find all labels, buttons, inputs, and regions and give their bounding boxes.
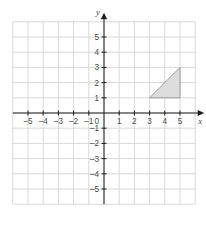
y-axis-tick-label: 2 — [94, 79, 99, 88]
y-axis-tick-label: 1 — [94, 94, 99, 103]
y-axis-tick-label: 5 — [94, 33, 99, 42]
coordinate-plane-figure: –5–4–3–2–112345–5–4–3–2–112345 x y 0 — [0, 0, 206, 225]
y-axis-tick-label: –2 — [90, 139, 100, 148]
x-axis-tick-label: 3 — [147, 117, 152, 126]
origin-label: 0 — [94, 117, 99, 126]
x-axis-label: x — [197, 116, 202, 126]
y-axis-tick-label: –5 — [90, 185, 100, 194]
y-axis-label: y — [95, 7, 100, 17]
x-axis-tick-label: –5 — [23, 117, 33, 126]
x-axis-tick-label: 4 — [163, 117, 168, 126]
coordinate-plane-svg: –5–4–3–2–112345–5–4–3–2–112345 x y 0 — [0, 0, 206, 225]
y-axis-tick-label: 4 — [94, 48, 99, 57]
x-axis-tick-label: 2 — [132, 117, 137, 126]
x-axis-tick-label: 1 — [117, 117, 122, 126]
x-axis-tick-label: 5 — [178, 117, 183, 126]
y-axis-tick-label: 3 — [94, 63, 99, 72]
x-axis-tick-label: –4 — [39, 117, 49, 126]
y-axis-tick-label: –3 — [90, 155, 100, 164]
y-axis-tick-label: –1 — [90, 124, 100, 133]
x-axis-tick-label: –2 — [69, 117, 79, 126]
x-axis-tick-label: –3 — [54, 117, 64, 126]
y-axis-tick-label: –4 — [90, 170, 100, 179]
